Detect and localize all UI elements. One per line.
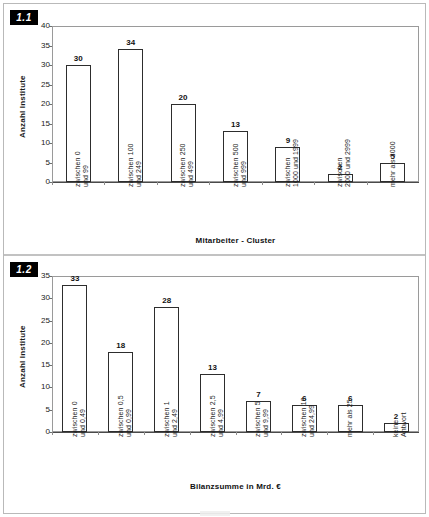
y-axis-tick-label: 40 xyxy=(28,22,50,30)
bar-value-label: 28 xyxy=(153,296,181,305)
x-axis-category-label: zwischen 1und 2,49 xyxy=(163,401,179,437)
x-axis-category-label: zwischen 10und 24,99 xyxy=(300,397,316,437)
bar-value-label: 7 xyxy=(244,390,272,399)
x-axis-tick-mark xyxy=(144,432,145,435)
y-axis-tick-label: 10 xyxy=(28,139,50,147)
y-axis-tick-label: 25 xyxy=(28,81,50,89)
y-axis-tick-label: 30 xyxy=(28,61,50,69)
x-axis-tick-mark xyxy=(236,432,237,435)
x-axis-tick-mark xyxy=(52,182,53,185)
y-axis-tick-label: 15 xyxy=(28,361,50,369)
y-axis-tick-label: 0 xyxy=(28,178,50,186)
x-axis-category-label: zwischen 0,5und 0,99 xyxy=(117,395,133,437)
y-axis-tick-label: 0 xyxy=(28,428,50,436)
x-axis-tick-mark xyxy=(281,432,282,435)
y-axis-label: Anzahl Institute xyxy=(18,75,27,138)
x-axis-category-label: mehr als 25 xyxy=(346,399,354,437)
x-axis-tick-mark xyxy=(98,432,99,435)
x-axis-tick-mark xyxy=(327,432,328,435)
document-page: 1.1 Anzahl Institute051015202530354030zw… xyxy=(3,3,426,514)
y-axis-tick-label: 20 xyxy=(28,339,50,347)
x-axis-category-label: zwischen1000 und 1999 xyxy=(284,139,300,187)
y-axis-tick-label: 5 xyxy=(28,159,50,167)
x-axis-tick-mark xyxy=(190,432,191,435)
bar-chart-1: Anzahl Institute051015202530354030zwisch… xyxy=(4,4,425,254)
x-axis-tick-mark xyxy=(104,182,105,185)
x-axis-category-label: zwischen 500und 999 xyxy=(232,143,248,187)
bar-value-label: 18 xyxy=(107,341,135,350)
y-axis-tick-label: 10 xyxy=(28,383,50,391)
x-axis-category-label: keineAntwort xyxy=(392,413,408,437)
x-axis-category-label: zwischen 100und 249 xyxy=(127,143,143,187)
x-axis-category-label: zwischen 2,5und 4,99 xyxy=(209,395,225,437)
bar-value-label: 13 xyxy=(222,120,250,129)
y-axis-tick-label: 30 xyxy=(28,294,50,302)
y-axis-tick-label: 20 xyxy=(28,100,50,108)
x-axis-category-label: zwischen 0und 0,49 xyxy=(71,401,87,437)
x-axis-tick-mark xyxy=(52,432,53,435)
chart-panel-1: 1.1 Anzahl Institute051015202530354030zw… xyxy=(4,4,425,254)
x-axis-tick-mark xyxy=(373,432,374,435)
bar-value-label: 13 xyxy=(199,363,227,372)
bar-chart-2: Anzahl Institute0510152025303533zwischen… xyxy=(4,256,425,513)
scan-artifact xyxy=(200,511,230,516)
plot-area xyxy=(52,276,419,432)
x-axis-category-label: zwischen2000 und 2999 xyxy=(336,139,352,187)
x-axis-category-label: zwischen 5und 9,99 xyxy=(254,401,270,437)
bar-value-label: 30 xyxy=(64,54,92,63)
y-axis-label: Anzahl Institute xyxy=(18,325,27,388)
x-axis-label: Bilanzsumme in Mrd. € xyxy=(52,482,419,491)
bar-value-label: 34 xyxy=(117,38,145,47)
x-axis-tick-mark xyxy=(157,182,158,185)
x-axis-category-label: zwischen 250und 499 xyxy=(179,143,195,187)
y-axis-tick-label: 15 xyxy=(28,120,50,128)
y-axis-tick-label: 35 xyxy=(28,42,50,50)
x-axis-tick-mark xyxy=(209,182,210,185)
y-axis-tick-label: 5 xyxy=(28,406,50,414)
x-axis-category-label: mehr als 3000 xyxy=(389,141,397,187)
x-axis-tick-mark xyxy=(314,182,315,185)
x-axis-tick-mark xyxy=(367,182,368,185)
bar-value-label: 33 xyxy=(61,274,89,283)
x-axis-label: Mitarbeiter - Cluster xyxy=(52,236,419,245)
bar-value-label: 20 xyxy=(169,93,197,102)
y-axis-tick-label: 35 xyxy=(28,272,50,280)
x-axis-category-label: zwischen 0und 99 xyxy=(74,151,90,187)
x-axis-tick-mark xyxy=(262,182,263,185)
y-axis-tick-label: 25 xyxy=(28,317,50,325)
chart-panel-2: 1.2 Anzahl Institute0510152025303533zwis… xyxy=(4,256,425,513)
